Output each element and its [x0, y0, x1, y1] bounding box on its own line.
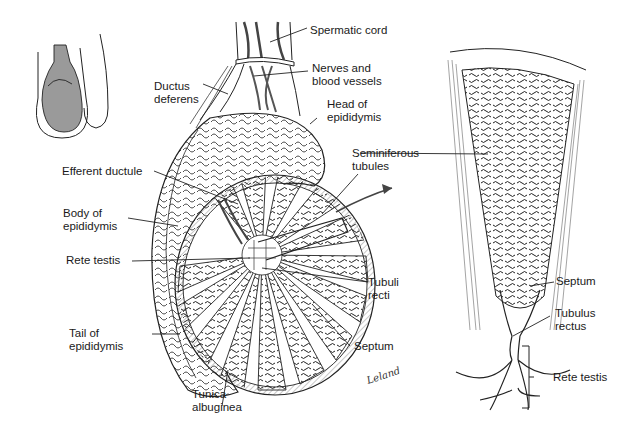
spermatic-cord-shape — [190, 22, 300, 128]
label-tubuli-recti: Tubuli recti — [368, 276, 399, 302]
label-body-of-epididymis: Body of epididymis — [63, 207, 117, 233]
label-seminiferous-tubules: Seminiferous tubules — [352, 147, 419, 173]
label-rete-testis: Rete testis — [66, 254, 120, 267]
label-septum-testis: Septum — [354, 340, 394, 353]
artist-signature: Leland — [364, 365, 401, 386]
label-tubulus-rectus: Tubulus rectus — [555, 307, 596, 333]
label-rete-testis-enlarged: Rete testis — [553, 371, 607, 384]
inset-location-sketch — [36, 34, 108, 138]
label-spermatic-cord: Spermatic cord — [310, 24, 387, 37]
enlarged-lobule — [448, 49, 586, 410]
label-efferent-ductule: Efferent ductule — [62, 165, 142, 178]
diagram-canvas: Leland Spermatic cord Nerves and blood v… — [0, 0, 640, 434]
label-tail-of-epididymis: Tail of epididymis — [69, 327, 123, 353]
label-ductus-deferens: Ductus deferens — [154, 80, 199, 106]
label-septum-lobule: Septum — [556, 275, 596, 288]
arrowhead-icon — [382, 184, 392, 194]
label-head-of-epididymis: Head of epididymis — [327, 98, 381, 124]
label-nerves-and-blood-vessels: Nerves and blood vessels — [312, 62, 382, 88]
label-tunica-albuginea: Tunica albuginea — [192, 388, 242, 414]
